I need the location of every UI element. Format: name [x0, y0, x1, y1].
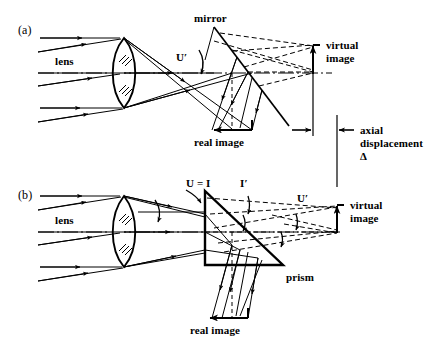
panel-a-drawing: [38, 27, 332, 130]
real-image-label-b: real image: [190, 324, 240, 336]
incoming-rays-b: [38, 196, 123, 281]
panel-a-label: (a): [18, 24, 32, 37]
virtual-construction-a: [214, 33, 313, 86]
axial-displacement-label-line1: axial: [360, 124, 383, 136]
panel-b-label: (b): [18, 189, 32, 202]
real-image-label-a: real image: [194, 136, 244, 148]
axial-displacement-label-line2: displacement: [360, 137, 423, 149]
u-prime-label-b: U′: [297, 192, 308, 204]
angle-marker-u-prime-a: [199, 50, 203, 74]
optics-figure: (a) lens U′ mirror real image virtual im…: [0, 0, 443, 355]
virtual-image-label-b-line1: virtual: [350, 199, 382, 211]
figure-drawing-canvas: [0, 0, 443, 355]
i-prime-label: I′: [240, 177, 248, 189]
converging-rays-b: [124, 196, 205, 267]
u-equals-i-label: U = I: [186, 177, 211, 189]
lens-b-hatching: [119, 214, 132, 255]
incoming-rays-a: [38, 38, 123, 122]
mirror-label: mirror: [194, 12, 227, 24]
virtual-construction-b: [205, 198, 337, 252]
virtual-image-label-b-line2: image: [350, 212, 379, 224]
virtual-image-label-a-line1: virtual: [326, 39, 358, 51]
virtual-image-label-a-line2: image: [326, 52, 355, 64]
lens-label-b: lens: [55, 214, 74, 226]
prism-label: prism: [286, 271, 314, 283]
axial-displacement-symbol: Δ: [360, 150, 367, 162]
lens-a-hatching: [119, 55, 132, 96]
panel-b-drawing: [38, 190, 344, 318]
lens-label-a: lens: [55, 55, 74, 67]
u-prime-label-a: U′: [176, 51, 187, 63]
